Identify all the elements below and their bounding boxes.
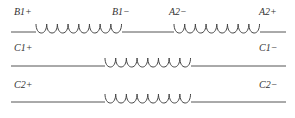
label-b1-minus: B1− [112, 6, 130, 17]
row-c1: C1+ C1− [11, 42, 286, 67]
label-c1-plus: C1+ [14, 42, 32, 53]
label-a2-minus: A2− [168, 6, 187, 17]
label-c2-minus: C2− [259, 79, 277, 90]
row-b1-a2: B1+ B1− A2− A2+ [11, 6, 286, 33]
coil-c2 [105, 94, 191, 103]
coil-c1 [105, 58, 191, 67]
label-b1-plus: B1+ [14, 6, 32, 17]
label-a2-plus: A2+ [258, 6, 277, 17]
row-c2: C2+ C2− [11, 79, 286, 103]
winding-diagram: B1+ B1− A2− A2+ C1+ C1− C2+ C2− [0, 0, 295, 118]
label-c2-plus: C2+ [14, 79, 32, 90]
coil-b1 [36, 24, 122, 33]
coil-a2 [174, 24, 260, 33]
label-c1-minus: C1− [259, 42, 277, 53]
